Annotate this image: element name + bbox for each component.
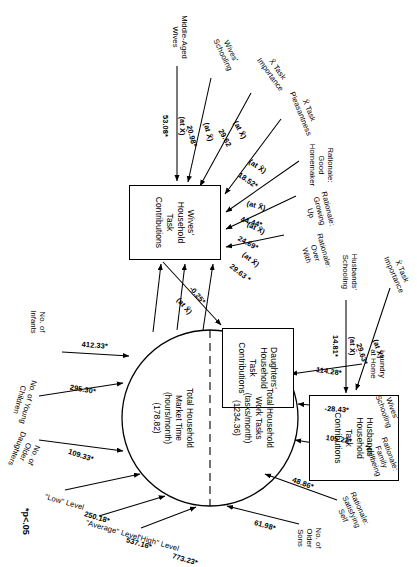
- total-household-market-time-label: Total Household Market Time (hours/month…: [151, 356, 195, 480]
- predictor-label-no-of-infants: No. of Infants: [29, 296, 47, 348]
- wives-household-task-contributions-box: Wives' Household Task Contributions: [129, 185, 221, 260]
- significance-footnote: *p<.05: [21, 508, 31, 535]
- predictor-label-middle-aged-wives: Middle-Aged Wives: [171, 6, 189, 68]
- predictor-label-husbands-schooling: Husbands' Schooling: [341, 244, 359, 300]
- predictor-label-laundry-at-home: Laundry at Home: [369, 338, 387, 390]
- coef-note: (at X̄): [246, 219, 267, 236]
- coef-note: (at X̄): [247, 157, 268, 175]
- coef-husbands-schooling: (at X̄) 14.81*: [331, 318, 365, 374]
- coef-note: (at X̄): [348, 336, 357, 355]
- path-diagram: Wives' Household Task Contributions Husb…: [0, 0, 417, 567]
- coef-value: 53.08*: [161, 115, 170, 137]
- coef-note: (at X̄): [241, 250, 262, 269]
- coef-value: -0.25*: [188, 284, 208, 305]
- diagram-page: Wives' Household Task Contributions Husb…: [0, 0, 417, 567]
- coef-value: 14.81*: [331, 335, 340, 357]
- total-household-work-tasks-label: Total Household Work Tasks (tasks/month)…: [231, 360, 275, 476]
- predictor-label-no-of-older-sons: No. of Older Sons: [296, 514, 323, 562]
- wives-box-label: Wives' Household Task Contributions: [154, 197, 197, 248]
- coef-note: (at X̄): [232, 119, 249, 140]
